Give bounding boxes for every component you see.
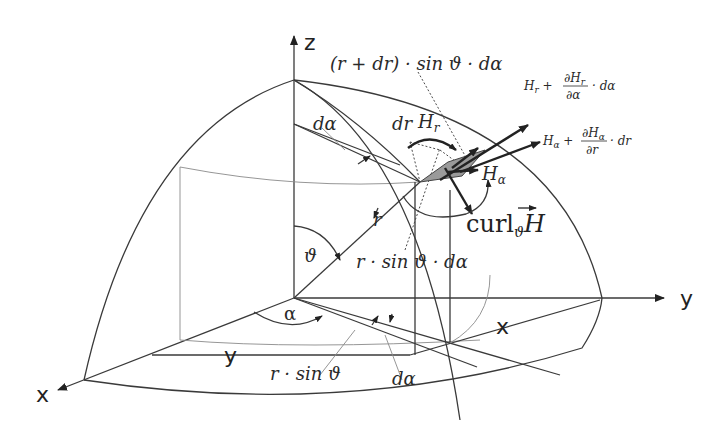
svg-text:∂Hr: ∂Hr bbox=[564, 71, 586, 87]
d-alpha-ticks bbox=[358, 156, 392, 325]
y-axis-label: y bbox=[680, 286, 693, 311]
formula-Ha-plus: Hα + ∂Hα ∂r · dr bbox=[542, 126, 632, 157]
floor-circle-arc bbox=[450, 275, 490, 343]
svg-text:curlϑH: curlϑH bbox=[466, 210, 546, 240]
y-floor-label: y bbox=[224, 343, 237, 368]
svg-text:· dα: · dα bbox=[592, 79, 615, 93]
svg-text:∂Hα: ∂Hα bbox=[582, 126, 605, 142]
d-alpha-bottom-label: dα bbox=[392, 368, 416, 389]
svg-text:∂r: ∂r bbox=[586, 143, 599, 157]
theta-label: ϑ bbox=[304, 245, 317, 266]
meridian-xz bbox=[84, 80, 294, 380]
d-alpha-wedge bbox=[152, 80, 600, 420]
x-axis-label: x bbox=[36, 382, 49, 407]
r-label: r bbox=[373, 209, 383, 230]
curl-label: curlϑH bbox=[466, 208, 546, 240]
dr-label: dr bbox=[392, 113, 414, 134]
d-alpha-top-label: dα bbox=[313, 113, 337, 134]
formula-Hr-plus: Hr + ∂Hr ∂α · dα bbox=[523, 71, 615, 102]
svg-text:Hr +: Hr + bbox=[523, 79, 553, 95]
z-axis-label: z bbox=[304, 30, 316, 55]
top-arc-label: (r + dr) · sin ϑ · dα bbox=[330, 53, 503, 74]
theta-arc bbox=[294, 226, 340, 260]
spherical-curl-diagram: z y x x y (r + dr) · sin ϑ · dα dα dr Hr… bbox=[0, 0, 701, 432]
wedge-radius-2 bbox=[294, 124, 400, 165]
svg-text:Hα +: Hα + bbox=[542, 134, 573, 150]
latitude-arc bbox=[180, 167, 420, 184]
svg-text:∂α: ∂α bbox=[566, 88, 580, 102]
Ha-label: Hα bbox=[481, 163, 506, 187]
circulation-arc-top bbox=[408, 139, 456, 150]
x-floor-label: x bbox=[496, 314, 509, 339]
radius-r bbox=[294, 182, 420, 298]
svg-text:· dr: · dr bbox=[610, 134, 632, 148]
arc-mid-label: r · sin ϑ · dα bbox=[356, 251, 468, 272]
r-sin-theta-label: r · sin ϑ bbox=[270, 363, 341, 384]
Hr-label: Hr bbox=[417, 111, 441, 135]
field-vectors bbox=[403, 125, 540, 217]
alpha-label: α bbox=[284, 303, 296, 324]
